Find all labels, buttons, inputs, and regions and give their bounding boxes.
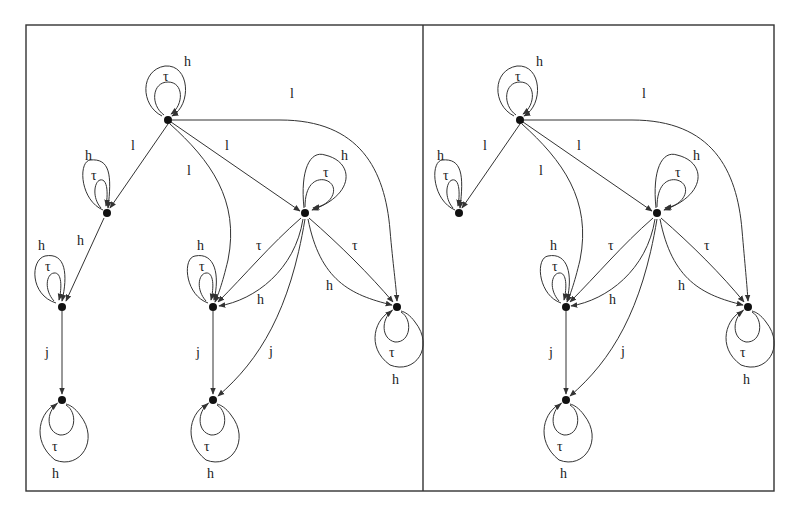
edge-H-H-h	[375, 310, 423, 367]
label-C-self-tau: τ	[45, 259, 51, 274]
label-D-self-tau: τ	[52, 439, 58, 454]
label-B-self-tau: τ	[443, 168, 449, 183]
edge-G-G-h	[655, 154, 698, 210]
label-G-E-h: h	[257, 292, 264, 307]
edge-G-G-h	[303, 154, 346, 210]
label-G-self-tau: τ	[323, 165, 329, 180]
edge-F-F-h	[544, 403, 592, 462]
label-A-G-l: l	[225, 138, 229, 153]
state-node-B	[455, 209, 463, 217]
label-B-self-h: h	[85, 148, 92, 163]
label-A-B-l: l	[131, 138, 135, 153]
label-F-self-h: h	[207, 466, 214, 481]
state-node-D	[58, 396, 66, 404]
label-G-E-tau: τ	[608, 238, 614, 253]
edge-E-E-tau	[199, 273, 213, 301]
label-C-D-j: j	[44, 345, 49, 360]
state-node-A	[164, 116, 172, 124]
edge-C-C-tau	[47, 273, 61, 301]
transition-system-figure: h τ l l l l h τ h h τ j τ h	[0, 0, 800, 516]
state-node-A	[516, 116, 524, 124]
edge-A-B-l	[110, 124, 168, 208]
edge-F-F-h	[191, 403, 239, 462]
label-G-H-tau: τ	[704, 238, 710, 253]
label-H-self-h: h	[743, 372, 750, 387]
label-H-self-h: h	[392, 372, 399, 387]
label-C-self-h: h	[38, 238, 45, 253]
edge-A-B-l	[462, 124, 520, 208]
label-G-E-h: h	[609, 292, 616, 307]
edge-G-H-h	[308, 219, 392, 305]
edge-H-H-tau	[384, 311, 409, 342]
edge-H-H-tau	[735, 311, 760, 342]
state-node-H	[393, 303, 401, 311]
label-G-H-h: h	[326, 278, 333, 293]
label-F-self-tau: τ	[557, 439, 563, 454]
state-node-G	[301, 209, 309, 217]
label-A-G-l: l	[577, 138, 581, 153]
label-G-self-tau: τ	[675, 165, 681, 180]
edge-B-C-h	[66, 218, 104, 301]
label-G-self-h: h	[693, 148, 700, 163]
left-panel: h τ l l l l h τ h h τ j τ h	[35, 54, 423, 481]
label-F-self-tau: τ	[204, 439, 210, 454]
label-A-E-l: l	[539, 163, 543, 178]
label-G-H-tau: τ	[352, 238, 358, 253]
edge-E-E-tau	[552, 273, 566, 301]
edge-F-F-tau	[553, 404, 578, 435]
label-H-self-tau: τ	[389, 345, 395, 360]
label-A-self-h: h	[536, 54, 543, 69]
state-node-G	[653, 209, 661, 217]
state-node-B	[103, 209, 111, 217]
edge-A-E-l	[522, 124, 583, 302]
label-E-self-tau: τ	[552, 259, 558, 274]
label-A-self-tau: τ	[515, 69, 521, 84]
label-E-F-j: j	[548, 345, 553, 360]
edge-D-D-tau	[49, 404, 74, 435]
state-node-F	[562, 396, 570, 404]
right-panel: h τ l l l l h τ h τ τ h j τ	[435, 54, 774, 481]
label-B-self-h: h	[437, 148, 444, 163]
edge-D-D-h	[40, 403, 88, 462]
state-node-H	[744, 303, 752, 311]
label-B-self-tau: τ	[91, 168, 97, 183]
edge-A-A-tau	[155, 82, 181, 115]
label-G-F-j: j	[620, 344, 625, 359]
state-node-C	[58, 303, 66, 311]
edge-B-B-tau	[447, 180, 459, 208]
label-H-self-tau: τ	[740, 345, 746, 360]
state-node-E	[209, 303, 217, 311]
label-D-self-h: h	[52, 466, 59, 481]
label-E-F-j: j	[195, 345, 200, 360]
figure-frame	[26, 25, 774, 491]
label-G-self-h: h	[341, 148, 348, 163]
edge-F-F-tau	[200, 404, 225, 435]
label-G-F-j: j	[268, 344, 273, 359]
label-F-self-h: h	[560, 466, 567, 481]
label-E-self-h: h	[550, 238, 557, 253]
edge-B-B-tau	[95, 180, 107, 208]
edge-G-G-tau	[305, 180, 334, 208]
label-A-E-l: l	[187, 163, 191, 178]
label-G-H-h: h	[678, 278, 685, 293]
edge-G-H-h	[660, 219, 743, 305]
label-A-H-l: l	[290, 86, 294, 101]
label-A-self-h: h	[184, 54, 191, 69]
edge-H-H-h	[726, 310, 774, 367]
label-B-C-h: h	[77, 233, 84, 248]
diagram-canvas: h τ l l l l h τ h h τ j τ h	[0, 0, 800, 516]
label-A-B-l: l	[483, 138, 487, 153]
label-A-H-l: l	[642, 86, 646, 101]
label-E-self-tau: τ	[199, 259, 205, 274]
label-G-E-tau: τ	[256, 238, 262, 253]
edge-A-A-tau	[507, 82, 533, 115]
edge-A-E-l	[170, 124, 231, 302]
label-E-self-h: h	[197, 238, 204, 253]
state-node-F	[209, 396, 217, 404]
edge-G-G-tau	[657, 180, 686, 208]
edge-A-H-l	[172, 120, 397, 301]
state-node-E	[562, 303, 570, 311]
label-A-self-tau: τ	[163, 69, 169, 84]
